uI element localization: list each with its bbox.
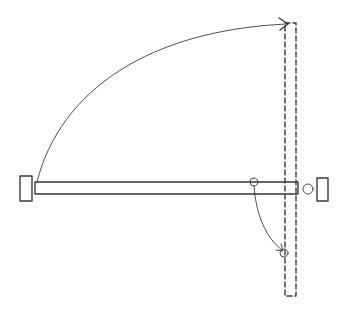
latch-circle: [303, 184, 313, 194]
pivot-circle-end: [280, 249, 288, 257]
bar-closed-position: [35, 182, 298, 194]
right-post: [317, 178, 328, 201]
bar-open-position-dashed: [285, 23, 296, 296]
door-swing-diagram: [0, 0, 337, 309]
diagram-canvas: [0, 0, 337, 309]
swing-arc: [37, 24, 287, 182]
pivot-arc: [254, 186, 282, 250]
left-post: [20, 176, 32, 201]
